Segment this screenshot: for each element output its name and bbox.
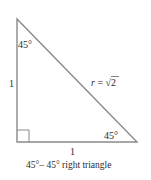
triangle-figure	[0, 0, 151, 180]
right-angle-marker	[17, 130, 29, 142]
bottom-right-angle-label: 45°	[104, 131, 118, 141]
triangle-shape	[17, 19, 137, 142]
diagram-caption: 45°– 45° right triangle	[26, 160, 111, 170]
triangle-diagram: 45° 1 r = √2 45° 1 45°– 45° right triang…	[0, 0, 151, 180]
vertical-side-label: 1	[9, 79, 14, 89]
hypotenuse-label: r = √2	[91, 78, 116, 88]
hypotenuse-equals: =	[95, 77, 106, 88]
hypotenuse-value: 2	[111, 77, 116, 88]
top-angle-label: 45°	[18, 40, 32, 50]
horizontal-side-label: 1	[70, 147, 75, 157]
